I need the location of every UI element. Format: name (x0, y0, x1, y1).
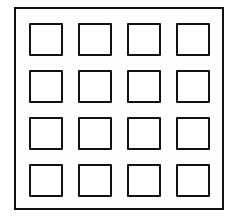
grid-square (176, 70, 210, 103)
grid-square (127, 23, 161, 56)
grid-square (176, 117, 210, 150)
grid-square (29, 164, 63, 197)
square-grid (29, 23, 210, 198)
grid-square (78, 164, 112, 197)
grid-square (78, 23, 112, 56)
grid-square (176, 23, 210, 56)
grid-square (78, 117, 112, 150)
grid-square (78, 70, 112, 103)
grid-square (127, 164, 161, 197)
grid-square (176, 164, 210, 197)
grid-square (127, 117, 161, 150)
grid-square (29, 117, 63, 150)
outer-frame (14, 7, 224, 210)
grid-square (29, 70, 63, 103)
grid-square (29, 23, 63, 56)
grid-square (127, 70, 161, 103)
